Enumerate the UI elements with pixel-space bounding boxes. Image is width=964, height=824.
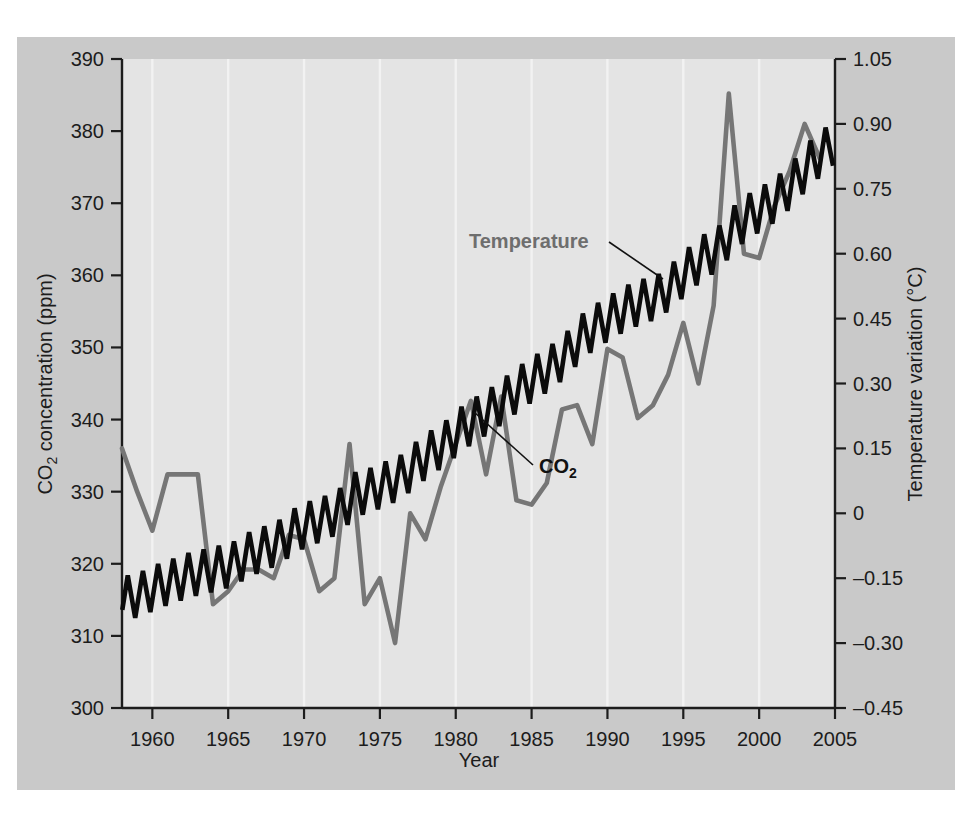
x-axis-tick-label: 1985 [509,728,554,750]
y-axis-right-tick-label: –0.30 [853,632,903,654]
co2-annotation-main: CO [539,455,569,477]
y-axis-right-tick-label: 0.60 [853,243,892,265]
y-axis-left-tick-label: 350 [71,336,104,358]
y-axis-left-tick-label: 320 [71,553,104,575]
y-axis-left-tick-label: 380 [71,120,104,142]
temperature-annotation-label: Temperature [469,230,589,252]
y-axis-left-tick-label: 370 [71,192,104,214]
y-axis-left-tick-label: 390 [71,48,104,70]
y-axis-right-tick-label: 0 [853,502,864,524]
y-axis-left-tick-label: 330 [71,481,104,503]
y-axis-right-tick-label: –0.15 [853,567,903,589]
y-axis-left-title-sub: 2 [44,457,60,465]
x-axis-labels: 1960196519701975198019851990199520002005 [130,728,857,750]
y-axis-right-tick-label: 0.90 [853,113,892,135]
y-axis-left-labels: 300310320330340350360370380390 [71,48,104,719]
x-axis-tick-label: 1960 [130,728,175,750]
figure-panel: 300310320330340350360370380390 –0.45–0.3… [17,37,955,790]
y-axis-right-tick-label: 0.75 [853,178,892,200]
x-axis-tick-label: 1965 [206,728,251,750]
x-axis-tick-label: 1990 [585,728,630,750]
y-axis-left-tick-label: 310 [71,625,104,647]
x-axis-tick-label: 1975 [358,728,403,750]
y-axis-left-title-main: CO [34,465,56,495]
climate-chart: 300310320330340350360370380390 –0.45–0.3… [17,37,955,790]
y-axis-left-title: CO2 concentration (ppm) [34,273,60,494]
y-axis-right-tick-label: 1.05 [853,48,892,70]
x-axis-tick-label: 2005 [813,728,858,750]
y-axis-right-tick-label: 0.15 [853,437,892,459]
x-axis-tick-label: 1970 [282,728,327,750]
x-axis-title: Year [459,749,500,771]
y-axis-left-title-rest: concentration (ppm) [34,273,56,456]
y-axis-right-title: Temperature variation (°C) [904,267,926,502]
y-axis-right-labels: –0.45–0.30–0.1500.150.300.450.600.750.90… [853,48,903,719]
co2-annotation-sub: 2 [569,465,577,481]
y-axis-left-tick-label: 340 [71,409,104,431]
y-axis-left-tick-label: 300 [71,697,104,719]
y-axis-right-tick-label: 0.30 [853,373,892,395]
y-axis-right-tick-label: 0.45 [853,308,892,330]
y-axis-right-tick-label: –0.45 [853,697,903,719]
y-axis-left-tick-label: 360 [71,264,104,286]
x-axis-tick-label: 1980 [433,728,478,750]
x-axis-tick-label: 2000 [737,728,782,750]
x-axis-tick-label: 1995 [661,728,706,750]
